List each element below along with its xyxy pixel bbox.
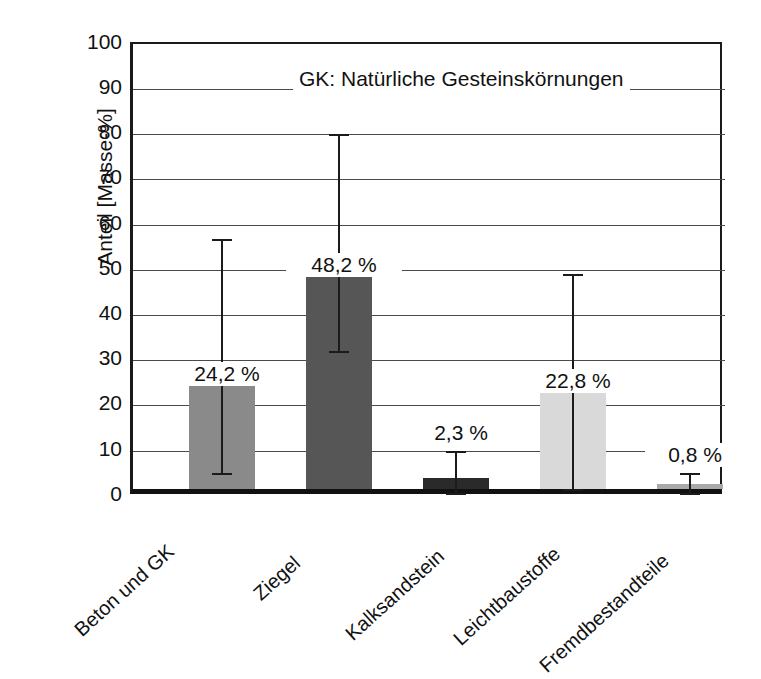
value-label-beton-und-gk: 24,2 %	[169, 362, 285, 386]
y-tick-label: 100	[78, 31, 122, 52]
chart-annotation: GK: Natürliche Gesteinskörnungen	[293, 66, 630, 92]
bar-chart: Anteil [Masse-%] 100 90 80 70 60 50 40 3…	[0, 0, 761, 679]
error-bar-beton-und-gk	[189, 239, 255, 475]
y-tick-label: 50	[78, 257, 122, 278]
y-tick-label: 40	[78, 302, 122, 323]
y-tick-label: 0	[78, 483, 122, 504]
error-bar-cap-bottom	[212, 473, 232, 475]
value-label-kalksandstein: 2,3 %	[411, 421, 511, 445]
y-tick-label: 20	[78, 392, 122, 413]
y-tick-label: 70	[78, 166, 122, 187]
gridline-60	[133, 225, 725, 226]
y-tick-label: 90	[78, 76, 122, 97]
x-tick-label-fremdbestandteile: Fremdbestandteile	[535, 549, 673, 676]
value-label-ziegel: 48,2 %	[286, 253, 402, 277]
y-tick-label: 10	[78, 438, 122, 459]
error-bar-cap-bottom	[680, 493, 700, 495]
error-bar-stem	[338, 134, 340, 353]
value-label-leichtbaustoffe: 22,8 %	[520, 369, 636, 393]
error-bar-fremdbestandteile	[657, 473, 723, 495]
error-bar-cap-bottom	[446, 493, 466, 495]
error-bar-cap-top	[329, 134, 349, 136]
y-tick-label: 60	[78, 212, 122, 233]
x-tick-label-leichtbaustoffe: Leichtbaustoffe	[449, 542, 564, 649]
error-bar-cap-top	[680, 473, 700, 475]
error-bar-cap-top	[563, 274, 583, 276]
error-bar-cap-top	[446, 451, 466, 453]
error-bar-ziegel	[306, 134, 372, 353]
error-bar-kalksandstein	[423, 451, 489, 495]
y-tick-label: 30	[78, 347, 122, 368]
y-axis-tick-labels: 100 90 80 70 60 50 40 30 20 10 0	[72, 42, 122, 494]
error-bar-stem	[221, 239, 223, 475]
gridline-80	[133, 134, 725, 135]
error-bar-stem	[455, 451, 457, 495]
error-bar-cap-top	[212, 239, 232, 241]
error-bar-stem	[689, 473, 691, 495]
x-tick-label-ziegel: Ziegel	[249, 552, 304, 605]
gridline-70	[133, 179, 725, 180]
error-bar-cap-bottom	[329, 351, 349, 353]
x-tick-label-kalksandstein: Kalksandstein	[341, 545, 448, 645]
value-label-fremdbestandteile: 0,8 %	[645, 443, 745, 467]
x-tick-label-beton-und-gk: Beton und GK	[70, 540, 178, 640]
y-tick-label: 80	[78, 121, 122, 142]
error-bar-cap-bottom	[563, 489, 583, 491]
plot-area: GK: Natürliche Gesteinskörnungen 24,2 % …	[130, 42, 722, 494]
